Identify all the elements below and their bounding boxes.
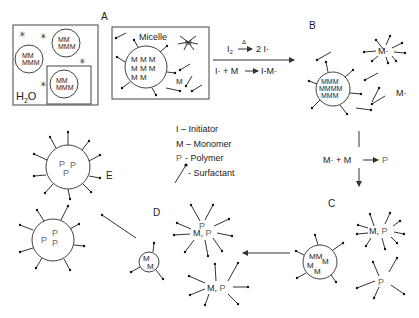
svg-text:MMM: MMM (56, 84, 74, 91)
emulsion-polymerization-diagram: MM MMM MM MMM MM MMM ✳ ✳ ✳ ✳ H2O A Micel… (0, 0, 419, 318)
panel-b: MMM MMMM MMM M· M· (308, 35, 407, 115)
legend-surfactant: - Surfactant (188, 168, 235, 178)
panel-a-water-box: MM MMM MM MMM MM MMM ✳ ✳ ✳ ✳ H2O (13, 25, 98, 105)
svg-text:I-M·: I-M· (261, 66, 277, 76)
label-a: A (101, 11, 108, 22)
panel-e-particle-bottom: P P P (19, 205, 85, 271)
svg-text:M: M (307, 261, 314, 270)
svg-text:MM: MM (58, 36, 70, 43)
svg-text:P: P (63, 168, 69, 178)
svg-text:M·: M· (396, 88, 407, 98)
svg-text:MM: MM (56, 77, 68, 84)
svg-text:M: M (314, 267, 321, 276)
svg-text:✳: ✳ (40, 32, 47, 41)
svg-text:P: P (52, 238, 58, 248)
svg-text:M M M: M M M (131, 64, 156, 73)
propagation-reaction: M· + M P (323, 131, 388, 186)
svg-text:M, P: M, P (207, 283, 226, 293)
svg-text:MM: MM (22, 52, 34, 59)
micelle-label: Micelle (139, 32, 167, 42)
label-e: E (106, 170, 113, 181)
panel-a-micelle-box: Micelle M M M M M M M M M M (112, 27, 209, 99)
svg-text:✳: ✳ (19, 30, 26, 39)
svg-text:M· + M: M· + M (323, 155, 351, 165)
svg-text:M, P: M, P (193, 228, 212, 238)
legend: I – Initiator M – Monomer P - Polymer - … (175, 124, 235, 183)
svg-text:M M: M M (131, 73, 147, 82)
svg-text:MMMM: MMMM (319, 85, 342, 92)
svg-text:MM: MM (309, 252, 323, 261)
svg-text:P: P (382, 155, 388, 165)
legend-monomer: M – Monomer (176, 139, 232, 149)
label-d: D (153, 207, 160, 218)
svg-text:P: P (52, 228, 58, 238)
svg-text:✳: ✳ (79, 57, 86, 66)
svg-text:M, P: M, P (369, 226, 388, 236)
svg-text:MMM: MMM (321, 92, 339, 99)
svg-text:M: M (176, 77, 183, 86)
svg-text:P: P (378, 277, 384, 287)
svg-text:I· + M: I· + M (215, 66, 238, 76)
svg-text:2 I·: 2 I· (256, 44, 269, 54)
panel-c: MM M M M M, P P (295, 212, 405, 299)
svg-text:MMM: MMM (22, 59, 40, 66)
arrow-d-to-e (102, 215, 136, 238)
label-b: B (309, 20, 316, 31)
legend-polymer: - Polymer (185, 153, 224, 163)
panel-e-particle-top: P P P (33, 131, 101, 200)
svg-text:P: P (41, 235, 47, 245)
initiation-reactions: I2 Δ 2 I· I· + M I-M· (213, 39, 294, 76)
svg-text:M: M (322, 257, 329, 266)
svg-text:M M M: M M M (131, 55, 156, 64)
svg-text:M: M (147, 262, 154, 271)
svg-text:MMM: MMM (58, 43, 76, 50)
panel-d: M M P M, P M, P (130, 204, 249, 306)
legend-polymer-symbol: P (176, 153, 182, 163)
legend-initiator: I – Initiator (176, 124, 218, 134)
svg-text:I2: I2 (227, 44, 234, 55)
svg-text:✳: ✳ (40, 80, 47, 89)
svg-text:Δ: Δ (242, 39, 246, 45)
svg-text:P: P (70, 160, 76, 170)
svg-text:M·: M· (378, 46, 389, 56)
label-c: C (328, 198, 335, 209)
svg-text:MMM: MMM (321, 78, 339, 85)
